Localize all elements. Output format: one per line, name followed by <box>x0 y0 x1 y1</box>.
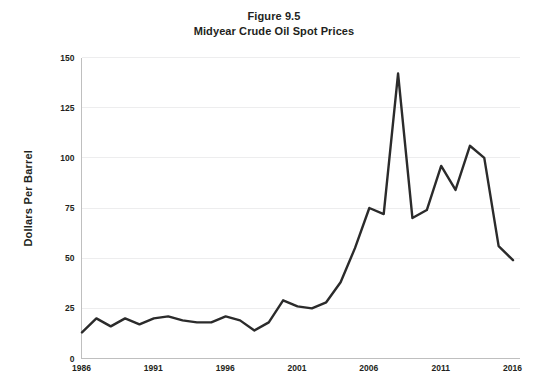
y-axis-title: Dollars Per Barrel <box>22 150 38 247</box>
x-tick-labels-group: 1986199119962001200620112016 <box>72 363 522 373</box>
y-tick-label: 25 <box>65 303 75 313</box>
x-tick-label: 1996 <box>216 363 235 373</box>
data-series-group <box>82 74 513 333</box>
chart-plot-area: 0255075100125150 19861991199620012006201… <box>0 0 548 384</box>
x-tick-label: 2011 <box>431 363 450 373</box>
gridlines-group <box>82 58 521 309</box>
x-tick-label: 1991 <box>144 363 163 373</box>
y-tick-labels-group: 0255075100125150 <box>60 53 74 364</box>
y-tick-label: 0 <box>70 354 75 364</box>
x-tick-label: 1986 <box>72 363 91 373</box>
series-line <box>82 74 513 333</box>
y-tick-label: 75 <box>65 203 75 213</box>
y-tick-label: 125 <box>60 103 74 113</box>
y-tick-label: 50 <box>65 253 75 263</box>
y-tick-label: 100 <box>60 153 74 163</box>
chart-figure: Figure 9.5 Midyear Crude Oil Spot Prices… <box>0 0 548 384</box>
x-tick-label: 2016 <box>503 363 522 373</box>
x-tick-label: 2001 <box>288 363 307 373</box>
y-tick-label: 150 <box>60 53 74 63</box>
x-tick-label: 2006 <box>359 363 378 373</box>
